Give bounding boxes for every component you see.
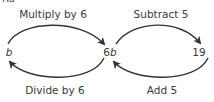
arrow-subtract-icon bbox=[116, 25, 200, 44]
arrow-divide-icon bbox=[10, 58, 104, 77]
inverse-operations-diagram: Ra Multiply by 6 Subtract 5 b 6b 19 Divi… bbox=[0, 0, 214, 102]
label-add-5: Add 5 bbox=[147, 84, 177, 96]
label-divide-by-6: Divide by 6 bbox=[25, 84, 85, 96]
arrow-add-icon bbox=[114, 58, 208, 77]
node-6b: 6b bbox=[103, 46, 116, 58]
node-b: b bbox=[6, 46, 13, 58]
arrow-multiply-icon bbox=[8, 25, 104, 44]
node-19: 19 bbox=[192, 46, 205, 58]
